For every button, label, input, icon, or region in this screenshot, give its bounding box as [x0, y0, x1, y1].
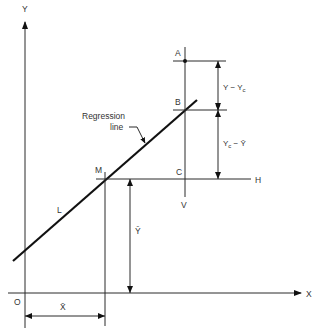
- regression-label: Regression: [82, 111, 125, 121]
- dimension-ybar: [127, 179, 133, 293]
- dimension-y-minus-yc: [215, 61, 221, 110]
- H-label: H: [255, 175, 261, 185]
- x-axis-label: X: [306, 289, 312, 299]
- y-minus-yc-label: Y − Yc: [223, 83, 246, 93]
- V-label: V: [181, 200, 187, 210]
- C-label: C: [176, 167, 182, 177]
- A-label: A: [175, 48, 181, 58]
- xbar-label: X̄: [60, 302, 66, 312]
- regression-diagram: Y X O Regression line L H M V A B C Y − …: [0, 0, 318, 332]
- dimension-yc-minus-ybar: [215, 110, 221, 179]
- B-label: B: [175, 97, 181, 107]
- yc-minus-ybar-label: Yc − Ȳ: [223, 139, 246, 149]
- y-axis-label: Y: [22, 4, 28, 14]
- point-A: [183, 59, 187, 63]
- regression-leader-arrow: [129, 127, 145, 143]
- dimension-xbar: [25, 313, 105, 319]
- origin-label: O: [14, 297, 21, 307]
- ybar-label: Ȳ: [135, 226, 141, 236]
- regression-label-line: line: [110, 122, 124, 132]
- line-L-label: L: [57, 205, 62, 215]
- M-label: M: [95, 165, 102, 175]
